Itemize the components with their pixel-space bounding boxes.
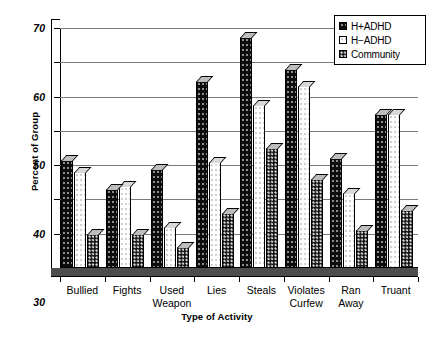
bar (106, 189, 118, 268)
bar-top-face (343, 188, 360, 194)
bar-top-face (311, 174, 328, 180)
bar-top-face (330, 153, 347, 159)
y-axis-tick-label: 50 (33, 159, 45, 171)
bar-top-face (132, 229, 149, 235)
x-axis-tick (373, 277, 374, 282)
bar-top-face (164, 222, 181, 228)
bar-top-face (298, 81, 315, 87)
x-axis-tick (105, 277, 106, 282)
legend-label-community: Community (351, 49, 400, 60)
bar (356, 230, 368, 268)
bar (330, 158, 342, 268)
chart-legend: H+ADHD H−ADHD Community (334, 15, 426, 65)
bar-group (196, 28, 234, 268)
bar-group (240, 28, 278, 268)
x-axis-tick (60, 277, 61, 282)
bar (209, 162, 221, 268)
x-axis-tick (329, 277, 330, 282)
bar-top-face (209, 157, 226, 163)
bar-group (151, 28, 189, 268)
x-axis-tick (150, 277, 151, 282)
legend-swatch-h-plus-adhd-icon (339, 22, 347, 30)
bar-top-face (285, 64, 302, 70)
bar (87, 234, 99, 268)
bar (132, 234, 144, 268)
bar-top-face (151, 164, 168, 170)
bar-top-face (222, 208, 239, 214)
bar-group (61, 28, 99, 268)
bar (164, 227, 176, 268)
bar-group (285, 28, 323, 268)
y-axis-tick-label: 40 (33, 228, 45, 240)
bar-top-face (401, 205, 418, 211)
bar (375, 114, 387, 268)
bar (298, 86, 310, 268)
legend-label-h-plus-adhd: H+ADHD (351, 21, 391, 32)
bar-top-face (266, 143, 283, 149)
bar (285, 69, 297, 268)
plot-depth-left-wall (51, 19, 60, 268)
x-axis-category-label: Truant (359, 284, 433, 297)
legend-swatch-community-icon (339, 50, 347, 58)
chart-figure: Percent of Group 010203040506070 Bullied… (0, 0, 434, 338)
bar-top-face (356, 225, 373, 231)
legend-label-h-minus-adhd: H−ADHD (351, 35, 391, 46)
bar (388, 114, 400, 268)
bar (222, 213, 234, 268)
bar (61, 160, 73, 268)
bar-top-face (177, 242, 194, 248)
x-axis-tick (418, 277, 419, 282)
x-axis-tick (239, 277, 240, 282)
y-axis-tick-label: 30 (33, 296, 45, 308)
y-axis-tick-label: 60 (33, 91, 45, 103)
bar-group (106, 28, 144, 268)
bar (196, 81, 208, 268)
bar-top-face (61, 155, 78, 161)
x-axis-tick (284, 277, 285, 282)
plot-floor (51, 268, 418, 277)
x-axis-title: Type of Activity (0, 311, 434, 322)
y-axis-tick-label: 70 (33, 22, 45, 34)
bar (119, 186, 131, 268)
bar (151, 169, 163, 268)
bar (343, 193, 355, 268)
bar-top-face (74, 167, 91, 173)
x-axis-tick (194, 277, 195, 282)
y-axis-title: Percent of Group (29, 62, 40, 242)
legend-swatch-h-minus-adhd-icon (339, 36, 347, 44)
bar-top-face (253, 100, 270, 106)
bar-top-face (87, 229, 104, 235)
legend-item-h-plus-adhd: H+ADHD (339, 19, 421, 33)
bar (74, 172, 86, 268)
legend-item-h-minus-adhd: H−ADHD (339, 33, 421, 47)
bar-top-face (240, 32, 257, 38)
bar (266, 148, 278, 268)
bar (240, 37, 252, 268)
bar (401, 210, 413, 268)
bar (253, 105, 265, 268)
bar (177, 247, 189, 268)
bar (311, 179, 323, 268)
bar-top-face (196, 76, 213, 82)
legend-item-community: Community (339, 47, 421, 61)
